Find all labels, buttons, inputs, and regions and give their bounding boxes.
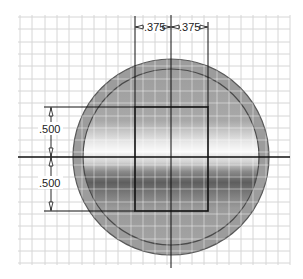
sketch-canvas[interactable]: .375 .375 .500 .500 [0,0,303,279]
dimension-left-lower[interactable]: .500 [39,177,60,189]
dimension-left-upper[interactable]: .500 [39,123,60,135]
dimension-top-left[interactable]: .375 [144,21,165,33]
dimension-top-right[interactable]: .375 [179,21,200,33]
